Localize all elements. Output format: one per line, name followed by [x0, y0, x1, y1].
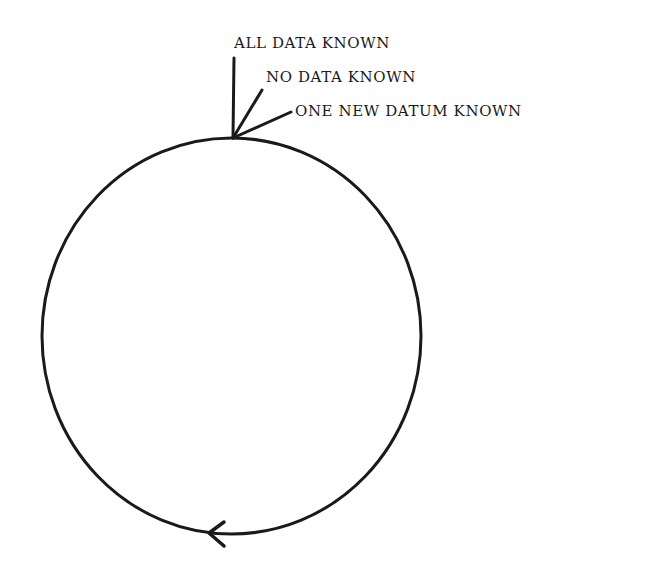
label-one-new-datum-known: ONE NEW DATUM KNOWN [295, 104, 522, 119]
cycle-diagram [0, 0, 646, 582]
label-all-data-known: ALL DATA KNOWN [234, 36, 390, 51]
label-no-data-known: NO DATA KNOWN [266, 70, 416, 85]
pointer-all-data [233, 58, 234, 138]
cycle-circle [42, 138, 421, 534]
